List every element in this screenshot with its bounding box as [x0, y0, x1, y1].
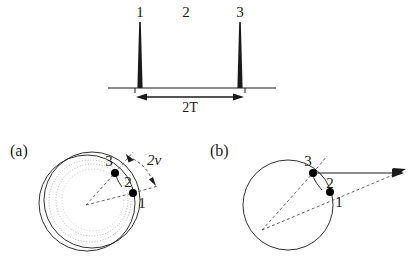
panel-a-ray-outward-3: [115, 152, 133, 173]
pulse-label-2: 2: [182, 4, 190, 20]
panel-b-point-label-2: 2: [326, 175, 334, 191]
pulse-spike-1: [137, 22, 142, 88]
panel-a-dotted-circle-3: [62, 169, 124, 231]
panel-a-point-3: [111, 169, 119, 177]
panel-a-label: (a): [10, 142, 28, 160]
figure-root: 1 2 3 2T (a): [0, 0, 410, 268]
panel-b-radius-to-3: [262, 173, 313, 230]
panel-b-point-3: [309, 169, 317, 177]
duration-arrowhead-right: [233, 94, 244, 101]
duration-label: 2T: [182, 100, 198, 115]
panel-a-arc-arrowhead-bottom: [149, 177, 156, 186]
pulse-spike-3: [237, 22, 242, 88]
figure-canvas: 1 2 3 2T (a): [0, 0, 410, 268]
panel-a-point-1: [129, 189, 137, 197]
panel-a-point-label-3: 3: [105, 153, 113, 169]
panel-a-radius-to-3: [86, 173, 115, 205]
panel-a-outer-circle-1: [39, 155, 135, 251]
panel-b-label: (b): [210, 142, 229, 160]
panel-b-dashed-arrowhead: [393, 168, 406, 176]
panel-b-group: (b) 3 2 1: [210, 142, 406, 250]
panel-b-point-label-3: 3: [304, 153, 312, 169]
panel-a-outer-circle-2: [44, 152, 140, 248]
panel-a-point-label-2: 2: [124, 174, 132, 190]
panel-a-group: (a) 3: [10, 142, 162, 251]
panel-a-radius-to-1: [86, 193, 133, 205]
pulse-sequence-group: 1 2 3 2T: [108, 4, 276, 115]
pulse-label-3: 3: [236, 4, 244, 20]
panel-a-point-label-1: 1: [138, 195, 146, 211]
duration-arrowhead-left: [136, 94, 147, 101]
pulse-label-1: 1: [136, 4, 144, 20]
panel-b-point-label-1: 1: [335, 194, 343, 210]
panel-a-angle-label: 2v: [147, 152, 162, 168]
